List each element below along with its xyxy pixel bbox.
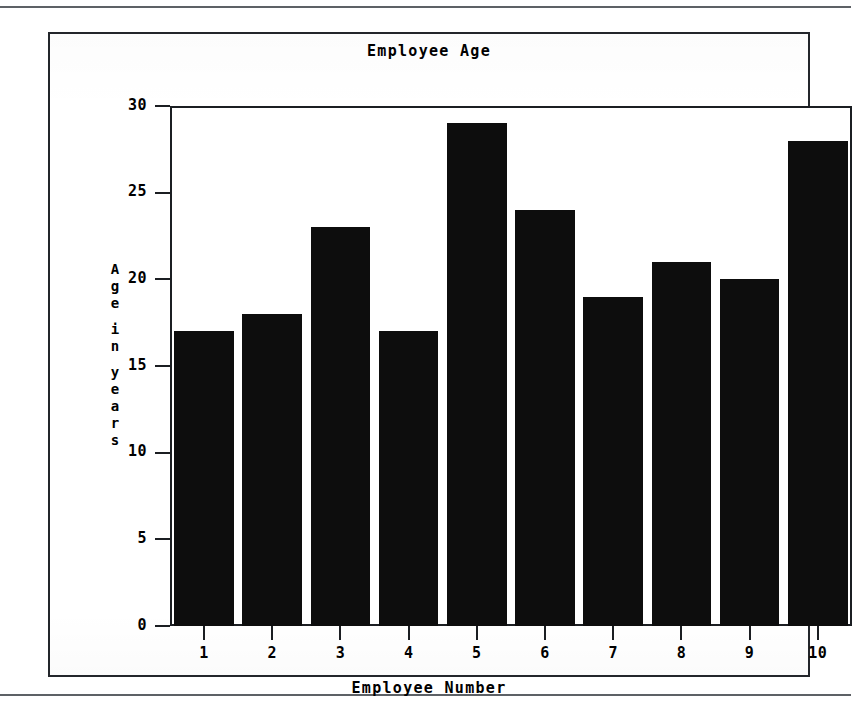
y-axis-tick-label: 15 <box>128 358 147 373</box>
x-axis-tick-label: 8 <box>649 644 714 666</box>
x-axis-tick-slot <box>172 626 237 642</box>
x-axis-tick-slot <box>513 626 578 642</box>
x-axis-ticks <box>170 626 852 642</box>
bar[interactable] <box>515 210 575 626</box>
x-axis-tick-mark <box>544 626 546 640</box>
x-axis-tick-slot <box>240 626 305 642</box>
bar-slot <box>240 106 305 626</box>
y-axis-tick-mark <box>155 625 170 627</box>
page-rule-top <box>0 6 851 8</box>
y-axis-tick-label: 10 <box>128 444 147 459</box>
x-axis-tick-slot <box>649 626 714 642</box>
x-axis-tick-mark <box>408 626 410 640</box>
bar[interactable] <box>652 262 712 626</box>
y-axis-tick-label: 25 <box>128 184 147 199</box>
x-axis-tick-slot <box>717 626 782 642</box>
bar[interactable] <box>720 279 780 626</box>
y-axis-tick-mark <box>155 105 170 107</box>
x-axis-tick-label: 10 <box>785 644 850 666</box>
x-axis-tick-slot <box>444 626 509 642</box>
x-axis-tick-slot <box>376 626 441 642</box>
bar-slot <box>785 106 850 626</box>
x-axis-tick-label: 6 <box>513 644 578 666</box>
x-axis-title: Employee Number <box>50 679 808 697</box>
x-axis-labels: 12345678910 <box>170 644 852 666</box>
x-axis-tick-label: 5 <box>444 644 509 666</box>
x-axis-tick-mark <box>203 626 205 640</box>
y-axis-tick-label: 20 <box>128 271 147 286</box>
bar[interactable] <box>583 297 643 626</box>
bar[interactable] <box>447 123 507 626</box>
x-axis-tick-mark <box>476 626 478 640</box>
bar-slot <box>308 106 373 626</box>
bar-slot <box>717 106 782 626</box>
y-axis-tick-mark <box>155 538 170 540</box>
y-axis-tick-mark <box>155 192 170 194</box>
y-axis-tick-mark <box>155 365 170 367</box>
bar-slot <box>376 106 441 626</box>
x-axis-tick-label: 9 <box>717 644 782 666</box>
x-axis-tick-mark <box>817 626 819 640</box>
bar-slot <box>172 106 237 626</box>
x-axis-tick-mark <box>339 626 341 640</box>
bar-series <box>170 106 852 626</box>
bar[interactable] <box>174 331 234 626</box>
x-axis-tick-mark <box>749 626 751 640</box>
x-axis-tick-slot <box>785 626 850 642</box>
bar[interactable] <box>379 331 439 626</box>
bar-slot <box>513 106 578 626</box>
x-axis-tick-mark <box>271 626 273 640</box>
bar-slot <box>581 106 646 626</box>
x-axis-tick-mark <box>612 626 614 640</box>
y-axis-tick-mark <box>155 452 170 454</box>
plot-area <box>170 106 852 626</box>
figure-frame: Employee Age Ageinyears 302520151050 123… <box>48 32 810 677</box>
x-axis-tick-slot <box>308 626 373 642</box>
y-axis-tick-mark <box>155 278 170 280</box>
bar-slot <box>444 106 509 626</box>
bar[interactable] <box>242 314 302 626</box>
x-axis-tick-label: 1 <box>172 644 237 666</box>
x-axis-tick-label: 2 <box>240 644 305 666</box>
y-axis-tick-label: 5 <box>137 531 147 546</box>
bar[interactable] <box>788 141 848 626</box>
x-axis-tick-label: 4 <box>376 644 441 666</box>
y-axis-tick-label: 0 <box>137 618 147 633</box>
x-axis-tick-label: 7 <box>581 644 646 666</box>
bar-slot <box>649 106 714 626</box>
x-axis-tick-label: 3 <box>308 644 373 666</box>
x-axis-tick-mark <box>680 626 682 640</box>
x-axis-tick-slot <box>581 626 646 642</box>
y-axis-tick-label: 30 <box>128 98 147 113</box>
bar[interactable] <box>311 227 371 626</box>
